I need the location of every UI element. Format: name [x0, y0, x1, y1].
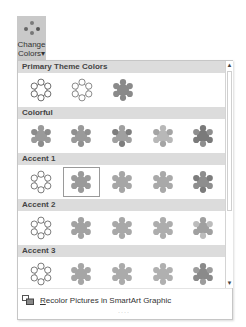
color-option[interactable] [63, 75, 101, 105]
resize-grip[interactable]: ···· [118, 309, 130, 315]
dots-icon [23, 20, 41, 36]
smartart-cycle-icon [110, 77, 136, 103]
smartart-cycle-icon [69, 77, 95, 103]
color-option[interactable] [144, 121, 182, 151]
section-header: Colorful [18, 107, 225, 119]
smartart-cycle-icon [68, 123, 94, 149]
color-option[interactable] [22, 121, 60, 151]
color-option[interactable] [63, 213, 101, 243]
section-header: Accent 3 [18, 245, 225, 257]
smartart-cycle-icon [190, 123, 216, 149]
color-option[interactable] [184, 121, 222, 151]
change-colors-dropdown: Primary Theme ColorsColorfulAccent 1Acce… [17, 60, 233, 320]
color-option[interactable] [184, 167, 222, 197]
smartart-cycle-icon [68, 169, 94, 195]
smartart-cycle-icon [190, 261, 216, 287]
smartart-cycle-icon [109, 215, 135, 241]
section-header: Accent 2 [18, 199, 225, 211]
recolor-pictures-menu-item[interactable]: Recolor Pictures in SmartArt Graphic [22, 293, 171, 307]
smartart-cycle-icon [150, 123, 176, 149]
smartart-cycle-icon [68, 215, 94, 241]
smartart-cycle-icon [190, 169, 216, 195]
color-option-row [18, 165, 225, 199]
color-option-row [18, 257, 225, 288]
smartart-cycle-icon [190, 215, 216, 241]
color-option[interactable] [63, 259, 101, 288]
recolor-pictures-label: Recolor Pictures in SmartArt Graphic [40, 296, 171, 305]
color-option[interactable] [103, 259, 141, 288]
smartart-cycle-icon [109, 261, 135, 287]
color-option[interactable] [22, 213, 60, 243]
color-option[interactable] [63, 167, 101, 197]
smartart-cycle-icon [109, 123, 135, 149]
smartart-cycle-icon [150, 169, 176, 195]
color-option-row [18, 73, 225, 107]
gallery-footer: Recolor Pictures in SmartArt Graphic ···… [18, 288, 232, 321]
change-colors-label: Change Colors▾ [17, 40, 46, 58]
smartart-cycle-icon [28, 77, 54, 103]
smartart-cycle-icon [28, 123, 54, 149]
color-option[interactable] [144, 213, 182, 243]
color-option-row [18, 119, 225, 153]
smartart-cycle-icon [28, 261, 54, 287]
color-option[interactable] [103, 213, 141, 243]
section-header: Accent 1 [18, 153, 225, 165]
color-option[interactable] [22, 75, 60, 105]
smartart-cycle-icon [109, 169, 135, 195]
color-option[interactable] [184, 259, 222, 288]
smartart-cycle-icon [150, 261, 176, 287]
color-gallery: Primary Theme ColorsColorfulAccent 1Acce… [18, 61, 225, 288]
recolor-pictures-icon [22, 295, 34, 305]
change-colors-button[interactable]: Change Colors▾ [17, 16, 46, 61]
color-option[interactable] [22, 167, 60, 197]
scroll-up-icon[interactable]: ▲ [226, 61, 233, 70]
color-option[interactable] [144, 259, 182, 288]
color-option[interactable] [144, 167, 182, 197]
color-option[interactable] [103, 167, 141, 197]
color-option[interactable] [22, 259, 60, 288]
color-option[interactable] [184, 213, 222, 243]
smartart-cycle-icon [68, 261, 94, 287]
scroll-down-icon[interactable]: ▼ [226, 279, 233, 288]
color-option[interactable] [103, 121, 141, 151]
color-option[interactable] [63, 121, 101, 151]
smartart-cycle-icon [150, 215, 176, 241]
color-option-row [18, 211, 225, 245]
color-option[interactable] [104, 75, 142, 105]
chevron-down-icon: ▾ [41, 49, 45, 58]
section-header: Primary Theme Colors [18, 61, 225, 73]
smartart-cycle-icon [28, 215, 54, 241]
gallery-scrollbar[interactable]: ▲ ▼ [225, 61, 233, 288]
smartart-cycle-icon [28, 169, 54, 195]
scroll-thumb[interactable] [227, 71, 232, 211]
